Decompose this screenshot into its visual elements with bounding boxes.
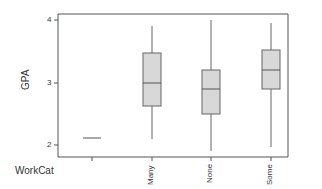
ytick-label-4: 4 (47, 15, 51, 24)
xcat-some: Some (265, 164, 274, 185)
box-none (202, 20, 220, 151)
box-many (143, 26, 161, 139)
x-axis-label: WorkCat (15, 165, 54, 176)
ytick-label-2: 2 (47, 140, 51, 149)
xcat-many: Many (146, 165, 155, 185)
ytick-label-3: 3 (47, 78, 51, 87)
y-axis-label: GPA (20, 70, 31, 90)
box-some (262, 23, 280, 147)
boxplot-chart (0, 0, 322, 189)
xcat-none: None (205, 164, 214, 183)
